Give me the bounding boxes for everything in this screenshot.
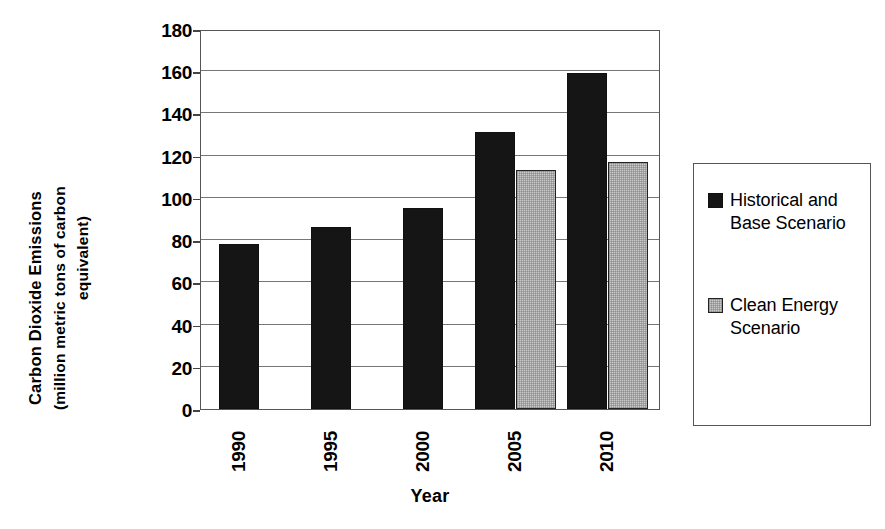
y-axis-tick-mark: [193, 199, 200, 201]
y-axis-tick-label: 120: [144, 147, 192, 166]
x-axis-tick-label: 1995: [320, 431, 342, 472]
y-axis-tick-label: 20: [144, 358, 192, 377]
x-axis-tick-label: 2010: [596, 431, 618, 472]
x-axis-tick-label: 2000: [412, 431, 434, 472]
y-axis-tick-mark: [193, 368, 200, 370]
y-axis-tick-label: 40: [144, 316, 192, 335]
x-axis-tick-label: 1990: [228, 431, 250, 472]
bar: [219, 244, 259, 409]
bar-group: [569, 31, 661, 409]
y-axis-tick-label: 80: [144, 232, 192, 251]
y-axis-tick-label: 100: [144, 189, 192, 208]
y-axis-title-line-1: Carbon Dioxide Emissions: [27, 191, 44, 405]
legend-swatch-icon: [708, 193, 723, 208]
chart-legend: Historical and Base Scenario Clean Energ…: [693, 163, 871, 426]
y-axis-tick-mark: [193, 30, 200, 32]
bar: [608, 162, 648, 409]
bar-chart-figure: Carbon Dioxide Emissions (million metric…: [0, 0, 885, 529]
bar-group: [477, 31, 569, 409]
plot-area: [200, 30, 660, 410]
bar: [475, 132, 515, 409]
bar: [567, 73, 607, 409]
bar-series-container: [201, 31, 659, 409]
legend-entry-label: Historical and Base Scenario: [730, 189, 870, 235]
x-axis-tick-label: 2005: [504, 431, 526, 472]
y-axis-tick-mark: [193, 241, 200, 243]
bar-group: [293, 31, 385, 409]
legend-entry-label: Clean Energy Scenario: [730, 294, 870, 340]
legend-swatch-icon: [708, 298, 723, 313]
x-axis-title: Year: [200, 486, 660, 507]
y-axis-tick-labels: 020406080100120140160180: [140, 30, 192, 410]
x-axis-tick-labels: 19901995200020052010: [200, 410, 660, 480]
bar: [403, 208, 443, 409]
bar-group: [201, 31, 293, 409]
y-axis-tick-label: 60: [144, 274, 192, 293]
legend-entry[interactable]: Clean Energy Scenario: [708, 294, 870, 340]
y-axis-tick-mark: [193, 410, 200, 412]
bar: [516, 170, 556, 409]
y-axis-tick-label: 180: [144, 21, 192, 40]
y-axis-tick-mark: [193, 157, 200, 159]
y-axis-tick-mark: [193, 114, 200, 116]
y-axis-title-line-3: equivalent): [75, 216, 91, 300]
y-axis-tick-label: 160: [144, 63, 192, 82]
y-axis-tick-label: 0: [144, 401, 192, 420]
legend-entry[interactable]: Historical and Base Scenario: [708, 189, 870, 235]
y-axis-tick-mark: [193, 326, 200, 328]
y-axis-tick-mark: [193, 283, 200, 285]
bar: [311, 227, 351, 409]
y-axis-tick-label: 140: [144, 105, 192, 124]
y-axis-title-line-2: (million metric tons of carbon: [52, 186, 68, 410]
y-axis-tick-mark: [193, 72, 200, 74]
bar-group: [385, 31, 477, 409]
